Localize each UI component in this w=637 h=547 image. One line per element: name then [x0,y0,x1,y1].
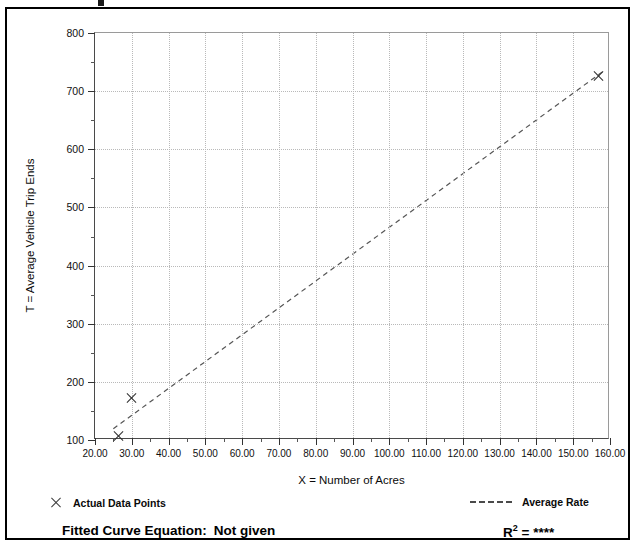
y-axis-minor-tick [91,295,95,296]
x-axis-major-tick [610,438,611,445]
y-axis-title: T = Average Vehicle Trip Ends [21,32,39,439]
x-axis-tick-label: 60.00 [230,448,255,459]
y-axis-major-tick [88,91,95,92]
data-point-marker [112,429,125,442]
horizontal-gridline [95,91,608,92]
x-axis-major-tick [389,438,390,445]
r-squared-exponent: 2 [513,523,518,533]
y-axis-major-tick [88,266,95,267]
vertical-gridline [169,33,170,438]
x-axis-minor-tick [371,438,372,442]
vertical-gridline [536,33,537,438]
x-axis-minor-tick [187,438,188,442]
x-axis-tick-label: 30.00 [119,448,144,459]
x-axis-major-tick [463,438,464,445]
x-axis-major-tick [242,438,243,445]
x-axis-tick-label: 90.00 [340,448,365,459]
legend-item-average-rate: Average Rate [470,496,589,508]
x-axis-major-tick [536,438,537,445]
x-axis-minor-tick [518,438,519,442]
x-axis-major-tick [132,438,133,445]
x-axis-minor-tick [592,438,593,442]
y-axis-minor-tick [91,411,95,412]
r-squared-equals: = [522,525,530,540]
y-axis-major-tick [88,149,95,150]
x-axis-tick-label: 110.00 [411,448,441,459]
x-axis-major-tick [95,438,96,445]
x-axis-tick-label: 150.00 [558,448,589,459]
r-squared-label: R [503,525,513,540]
y-axis-tick-label: 600 [66,143,84,155]
vertical-gridline [205,33,206,438]
fitted-curve-value: Not given [214,523,276,538]
vertical-gridline [279,33,280,438]
x-axis-minor-tick [444,438,445,442]
chart-frame: T = Average Vehicle Trip Ends 20.0030.00… [5,7,630,540]
x-axis-minor-tick [224,438,225,442]
x-marker-icon [49,496,62,509]
x-axis-tick-label: 80.00 [303,448,328,459]
x-axis-tick-label: 20.00 [82,448,107,459]
x-axis-tick-label: 100.00 [374,448,405,459]
vertical-gridline [463,33,464,438]
x-axis-minor-tick [150,438,151,442]
plot-area: 20.0030.0040.0050.0060.0070.0080.0090.00… [94,32,609,439]
x-axis-major-tick [169,438,170,445]
x-axis-major-tick [426,438,427,445]
x-axis-minor-tick [408,438,409,442]
horizontal-gridline [95,266,608,267]
x-axis-title: X = Number of Acres [94,474,609,486]
y-axis-tick-label: 500 [66,201,84,213]
r-squared-stars: **** [533,525,554,540]
x-axis-major-tick [353,438,354,445]
dashed-line-icon [470,501,512,503]
x-axis-tick-label: 40.00 [156,448,181,459]
y-axis-minor-tick [91,353,95,354]
y-axis-tick-label: 800 [66,27,84,39]
x-axis-minor-tick [481,438,482,442]
vertical-gridline [389,33,390,438]
y-axis-tick-label: 700 [66,85,84,97]
y-axis-minor-tick [91,178,95,179]
x-axis-tick-label: 130.00 [484,448,515,459]
vertical-gridline [242,33,243,438]
data-point-marker [592,70,605,83]
x-axis-tick-label: 120.00 [448,448,479,459]
x-axis-major-tick [573,438,574,445]
horizontal-gridline [95,324,608,325]
x-axis-major-tick [279,438,280,445]
y-axis-tick-label: 100 [66,434,84,446]
fitted-curve-equation: Fitted Curve Equation:Not given [62,523,275,538]
vertical-gridline [132,33,133,438]
vertical-gridline [316,33,317,438]
x-axis-minor-tick [297,438,298,442]
r-squared-value: R2 = **** [503,523,554,540]
clipped-title-fragment [98,0,104,6]
vertical-gridline [500,33,501,438]
y-axis-tick-label: 300 [66,318,84,330]
x-axis-minor-tick [261,438,262,442]
vertical-gridline [353,33,354,438]
x-axis-tick-label: 50.00 [193,448,218,459]
horizontal-gridline [95,207,608,208]
fitted-curve-label: Fitted Curve Equation: [62,523,207,538]
y-axis-major-tick [88,440,95,441]
legend-item-actual-data-points: Actual Data Points [49,496,166,509]
data-point-marker [125,392,138,405]
x-axis-major-tick [500,438,501,445]
legend-label-average-rate: Average Rate [522,496,589,508]
vertical-gridline [573,33,574,438]
y-axis-tick-label: 400 [66,260,84,272]
y-axis-major-tick [88,382,95,383]
horizontal-gridline [95,149,608,150]
x-axis-tick-label: 140.00 [521,448,552,459]
x-axis-tick-label: 70.00 [266,448,291,459]
trendline-segment [113,72,602,429]
y-axis-major-tick [88,207,95,208]
x-axis-major-tick [205,438,206,445]
y-axis-major-tick [88,324,95,325]
x-axis-major-tick [316,438,317,445]
x-axis-minor-tick [334,438,335,442]
x-axis-tick-label: 160.00 [595,448,626,459]
horizontal-gridline [95,382,608,383]
